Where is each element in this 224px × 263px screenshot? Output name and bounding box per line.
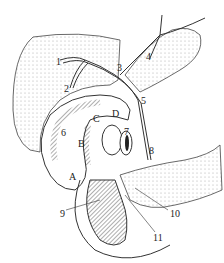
label-A: A xyxy=(69,172,76,182)
label-B: B xyxy=(78,139,85,149)
label-2: 2 xyxy=(64,84,69,94)
pancreas-shape xyxy=(120,145,222,208)
label-7: 7 xyxy=(124,127,129,137)
gallbladder-shape xyxy=(125,28,201,92)
label-4: 4 xyxy=(146,52,151,62)
label-10: 10 xyxy=(170,209,180,219)
label-9: 9 xyxy=(60,209,65,219)
label-1: 1 xyxy=(56,57,61,67)
label-5: 5 xyxy=(141,96,146,106)
label-D: D xyxy=(112,109,119,119)
anatomy-figure xyxy=(0,0,224,263)
label-3: 3 xyxy=(117,63,122,73)
label-11: 11 xyxy=(153,233,163,243)
label-C: C xyxy=(93,114,100,124)
label-6: 6 xyxy=(61,128,66,138)
label-8: 8 xyxy=(149,146,154,156)
